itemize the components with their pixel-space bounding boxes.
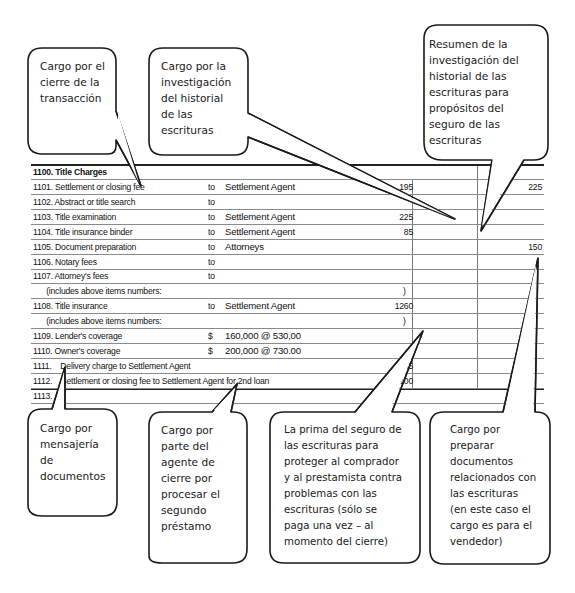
callout-line: investigación del xyxy=(429,52,519,68)
row-payee: Settlement Agent xyxy=(225,180,295,194)
callout-line: escrituras para xyxy=(429,84,519,100)
amount-borrower: 195 xyxy=(399,180,413,194)
callout-closing-fee: Cargo por el cierre de la transacción xyxy=(40,58,105,106)
amount-borrower: 225 xyxy=(399,210,413,224)
row-paren: ) xyxy=(403,284,406,298)
callout-delivery: Cargo por mensajería de documentos xyxy=(40,420,105,484)
callout-line: propósitos del xyxy=(429,100,519,116)
callout-line: parte del xyxy=(161,438,220,454)
table-row: (includes above items numbers:) xyxy=(31,284,544,299)
amount-borrower: 100 xyxy=(399,374,413,388)
row-label: 1113. xyxy=(33,389,52,403)
row-to: to xyxy=(208,240,215,254)
callout-binder: Resumen de la investigación del historia… xyxy=(429,36,519,148)
row-label: 1104. Title insurance binder xyxy=(33,225,132,239)
callout-line: préstamo xyxy=(161,518,220,534)
table-row: 1105. Document preparationtoAttorneys150 xyxy=(31,240,544,255)
row-to: to xyxy=(208,255,215,269)
callout-line: mensajería xyxy=(40,436,105,452)
callout-line: Cargo por xyxy=(40,420,105,436)
callout-line: proteger al comprador xyxy=(284,454,402,470)
row-label: 1109. Lender's coverage xyxy=(33,329,122,343)
table-row: 1101. Settlement or closing feetoSettlem… xyxy=(31,180,544,195)
callout-line: de las xyxy=(161,106,231,122)
row-label: 1110. Owner's coverage xyxy=(33,344,120,358)
amount-seller: 150 xyxy=(528,240,542,254)
callout-line: Cargo por xyxy=(450,422,536,438)
callout-line: La prima del seguro de xyxy=(284,422,402,438)
callout-line: Cargo por xyxy=(161,422,220,438)
callout-line: Cargo por la xyxy=(161,58,231,74)
callout-line: escrituras xyxy=(161,122,231,138)
row-label: (includes above items numbers: xyxy=(33,314,161,328)
callout-line: cargo es para el xyxy=(450,518,536,534)
row-label: 1103. Title examination xyxy=(33,210,116,224)
row-label: 1108. Title insurance xyxy=(33,299,107,313)
callout-line: momento del cierre) xyxy=(284,534,402,550)
row-payee: Settlement Agent xyxy=(225,299,295,313)
amount-borrower: 85 xyxy=(404,225,413,239)
callout-line: las escrituras xyxy=(450,486,536,502)
callout-line: historial de las xyxy=(429,68,519,84)
callout-line: cierre de la xyxy=(40,74,105,90)
row-label: 1102. Abstract or title search xyxy=(33,195,135,209)
callout-line: relacionados con xyxy=(450,470,536,486)
table-row: 1110. Owner's coverage$200,000 @ 730.00 xyxy=(31,344,544,359)
row-label: 1111. Delivery charge to Settlement Agen… xyxy=(33,359,190,373)
callout-second-loan: Cargo por parte del agente de cierre por… xyxy=(161,422,220,534)
row-label: 1101. Settlement or closing fee xyxy=(33,180,145,194)
table-row: 1102. Abstract or title searchto xyxy=(31,195,544,210)
table-row: 1106. Notary feesto xyxy=(31,255,544,270)
row-label: 1105. Document preparation xyxy=(33,240,136,254)
callout-line: segundo xyxy=(161,502,220,518)
callout-line: cierre por xyxy=(161,470,220,486)
amount-borrower: 1260 xyxy=(395,299,413,313)
callout-line: las escrituras para xyxy=(284,438,402,454)
callout-line: agente de xyxy=(161,454,220,470)
callout-line: de xyxy=(40,452,105,468)
callout-line: problemas con las xyxy=(284,486,402,502)
callout-line: vendedor) xyxy=(450,534,536,550)
callout-line: documentos xyxy=(450,454,536,470)
row-to: to xyxy=(208,225,215,239)
row-to: $ xyxy=(208,329,213,343)
row-paren: ) xyxy=(403,314,406,328)
row-label: 1107. Attorney's fees xyxy=(33,269,108,283)
row-to: to xyxy=(208,180,215,194)
callout-line: Cargo por el xyxy=(40,58,105,74)
table-row: 1113. xyxy=(31,389,544,404)
row-to: to xyxy=(208,299,215,313)
callout-line: escrituras xyxy=(429,132,519,148)
row-label: 1106. Notary fees xyxy=(33,255,97,269)
table-row: 1112. Settlement or closing fee to Settl… xyxy=(31,374,544,389)
table-row: 1103. Title examinationtoSettlement Agen… xyxy=(31,210,544,225)
callout-doc-prep: Cargo por preparar documentos relacionad… xyxy=(450,422,536,550)
callout-line: preparar xyxy=(450,438,536,454)
table-row: 1109. Lender's coverage$160,000 @ 530,00 xyxy=(31,329,544,344)
row-payee: Settlement Agent xyxy=(225,225,295,239)
row-to: $ xyxy=(208,344,213,358)
callout-line: Resumen de la xyxy=(429,36,519,52)
table-row: (includes above items numbers:) xyxy=(31,314,544,329)
callout-title-search: Cargo por la investigación del historial… xyxy=(161,58,231,138)
row-payee: Attorneys xyxy=(225,240,264,254)
callout-line: y al prestamista contra xyxy=(284,470,402,486)
callout-line: documentos xyxy=(40,468,105,484)
callout-line: investigación xyxy=(161,74,231,90)
amount-borrower: 55 xyxy=(404,359,413,373)
table-row: 1104. Title insurance bindertoSettlement… xyxy=(31,225,544,240)
callout-title-insurance: La prima del seguro de las escrituras pa… xyxy=(284,422,402,550)
row-to: to xyxy=(208,210,215,224)
amount-seller: 225 xyxy=(528,180,542,194)
callout-line: paga una vez – al xyxy=(284,518,402,534)
row-label: (includes above items numbers: xyxy=(33,284,161,298)
callout-line: procesar el xyxy=(161,486,220,502)
table-row: 1111. Delivery charge to Settlement Agen… xyxy=(31,359,544,374)
row-label: 1112. Settlement or closing fee to Settl… xyxy=(33,374,269,388)
row-to: to xyxy=(208,195,215,209)
callout-line: transacción xyxy=(40,90,105,106)
callout-line: (en este caso el xyxy=(450,502,536,518)
callout-line: escrituras (sólo se xyxy=(284,502,402,518)
row-payee: 200,000 @ 730.00 xyxy=(225,344,301,358)
row-payee: Settlement Agent xyxy=(225,210,295,224)
